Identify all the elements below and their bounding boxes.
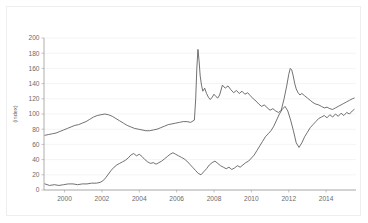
y-axis-ticks: 020406080100120140160180200 — [28, 34, 44, 193]
y-tick-label: 100 — [28, 110, 39, 117]
y-tick-label: 120 — [28, 95, 39, 102]
x-axis-ticks: 20002002200420062008201020122014 — [57, 190, 334, 202]
data-series-group — [45, 49, 354, 185]
y-tick-label: 200 — [28, 34, 39, 41]
y-tick-label: 80 — [32, 126, 40, 133]
series-line-series-upper — [45, 49, 354, 135]
x-tick-label: 2000 — [57, 195, 72, 202]
gridlines — [44, 38, 356, 190]
y-axis-title: (index) — [12, 105, 18, 122]
x-tick-label: 2006 — [169, 195, 184, 202]
y-tick-label: 140 — [28, 80, 39, 87]
line-chart: 020406080100120140160180200 200020022004… — [0, 0, 368, 223]
y-tick-label: 180 — [28, 50, 39, 57]
x-tick-label: 2012 — [281, 195, 296, 202]
y-tick-label: 60 — [32, 141, 40, 148]
y-tick-label: 40 — [32, 156, 40, 163]
y-tick-label: 0 — [36, 186, 40, 193]
x-tick-label: 2008 — [207, 195, 222, 202]
chart-figure: 020406080100120140160180200 200020022004… — [0, 0, 368, 223]
x-tick-label: 2002 — [95, 195, 110, 202]
x-tick-label: 2014 — [319, 195, 334, 202]
x-tick-label: 2004 — [132, 195, 147, 202]
y-tick-label: 160 — [28, 65, 39, 72]
y-tick-label: 20 — [32, 171, 40, 178]
x-tick-label: 2010 — [244, 195, 259, 202]
plot-wrapper: 020406080100120140160180200 200020022004… — [0, 0, 368, 223]
